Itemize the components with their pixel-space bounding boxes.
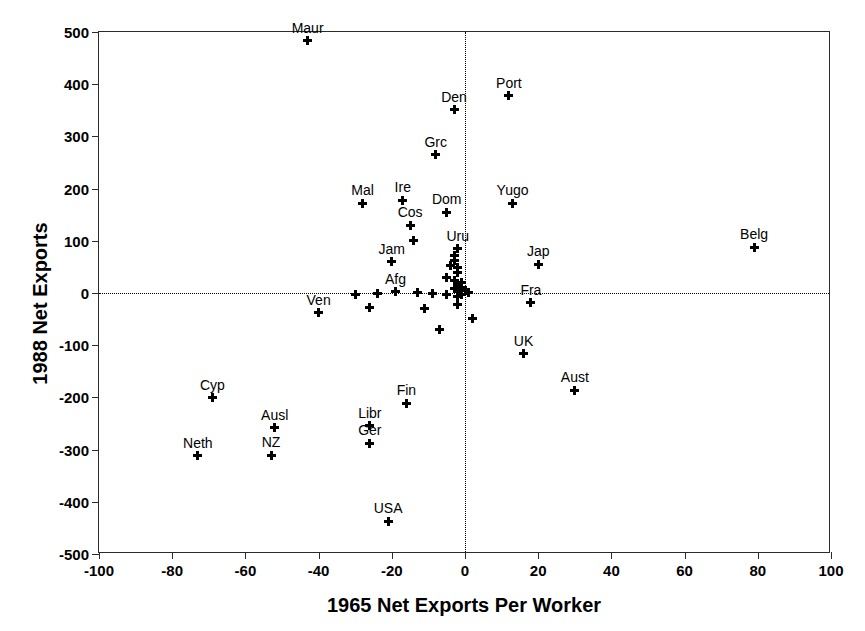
data-point [442, 208, 451, 217]
x-tick [172, 552, 173, 559]
y-tick-label: 400 [64, 76, 89, 93]
data-point-label: Port [496, 76, 522, 90]
x-tick-label: 80 [749, 562, 766, 579]
data-point [358, 199, 367, 208]
y-tick [92, 136, 99, 137]
data-point-label: Uru [446, 229, 469, 243]
data-point-label: Cos [398, 205, 423, 219]
data-point-label: Neth [183, 436, 213, 450]
x-tick-label: -40 [308, 562, 330, 579]
data-point [409, 236, 418, 245]
data-point-label: Afg [385, 272, 406, 286]
x-axis-title: 1965 Net Exports Per Worker [98, 594, 830, 617]
data-point [453, 263, 462, 272]
x-tick [831, 552, 832, 559]
data-point-label: Ire [395, 180, 411, 194]
data-point-label: Aust [561, 370, 589, 384]
zero-vertical-reference-line [465, 32, 466, 552]
data-point [442, 290, 451, 299]
y-tick-label: -500 [59, 546, 89, 563]
data-point-label: Dom [432, 192, 462, 206]
x-tick [245, 552, 246, 559]
x-tick-label: -100 [84, 562, 114, 579]
y-tick-label: 200 [64, 180, 89, 197]
x-tick [538, 552, 539, 559]
y-tick [92, 189, 99, 190]
x-tick-label: -60 [235, 562, 257, 579]
data-point [453, 300, 462, 309]
data-point-label: Ger [358, 423, 381, 437]
data-point [391, 287, 400, 296]
data-point [365, 303, 374, 312]
data-point-label: Maur [292, 21, 324, 35]
data-point [267, 451, 276, 460]
data-point [453, 281, 462, 290]
x-tick [392, 552, 393, 559]
data-point [570, 386, 579, 395]
data-point [450, 251, 459, 260]
y-tick [92, 241, 99, 242]
data-point-label: Belg [740, 227, 768, 241]
data-point-label: Jam [379, 242, 405, 256]
data-point-label: Ausl [261, 408, 288, 422]
x-tick-label: -80 [161, 562, 183, 579]
data-point [450, 105, 459, 114]
x-tick-label: 60 [676, 562, 693, 579]
x-tick [319, 552, 320, 559]
data-point [314, 308, 323, 317]
y-tick [92, 345, 99, 346]
data-point-label: Grc [424, 135, 447, 149]
y-tick [92, 450, 99, 451]
data-point [303, 36, 312, 45]
data-point [519, 349, 528, 358]
x-tick [685, 552, 686, 559]
y-tick-label: 300 [64, 128, 89, 145]
x-tick-label: -20 [381, 562, 403, 579]
y-tick-label: 0 [81, 285, 89, 302]
y-tick-label: -200 [59, 389, 89, 406]
data-point-label: Den [441, 90, 467, 104]
x-tick-label: 0 [461, 562, 469, 579]
y-axis-title: 1988 Net Exports [29, 124, 52, 484]
data-point [504, 91, 513, 100]
scatter-plot-figure: -500-400-300-200-1000100200300400500 -10… [0, 0, 865, 631]
data-point [431, 150, 440, 159]
zero-horizontal-reference-line [99, 293, 829, 294]
x-tick-label: 100 [818, 562, 843, 579]
data-point [453, 244, 462, 253]
x-tick-label: 40 [603, 562, 620, 579]
y-tick [92, 502, 99, 503]
data-point-label: Fra [520, 283, 541, 297]
data-point [270, 423, 279, 432]
data-point-label: Mal [351, 183, 374, 197]
data-point [406, 221, 415, 230]
data-point [365, 439, 374, 448]
x-tick-label: 20 [530, 562, 547, 579]
x-tick [465, 552, 466, 559]
data-point [750, 243, 759, 252]
data-point [450, 276, 459, 285]
data-point [453, 287, 462, 296]
data-point [453, 268, 462, 277]
data-point [351, 290, 360, 299]
x-tick [611, 552, 612, 559]
data-point-label: UK [514, 334, 533, 348]
data-point-label: Jap [527, 244, 550, 258]
data-point-label: Yugo [497, 183, 529, 197]
plot-area: -500-400-300-200-1000100200300400500 -10… [98, 31, 830, 553]
data-point [450, 256, 459, 265]
data-point-label: NZ [262, 435, 281, 449]
data-point [446, 261, 455, 270]
data-point-label: Fin [397, 383, 416, 397]
y-tick [92, 293, 99, 294]
data-point [193, 451, 202, 460]
data-point [384, 517, 393, 526]
data-point [435, 325, 444, 334]
data-point-label: Libr [358, 406, 381, 420]
x-tick [99, 552, 100, 559]
data-point [208, 393, 217, 402]
data-point [387, 257, 396, 266]
data-point-label: Cyp [200, 378, 225, 392]
data-point [402, 399, 411, 408]
y-tick-label: -300 [59, 441, 89, 458]
